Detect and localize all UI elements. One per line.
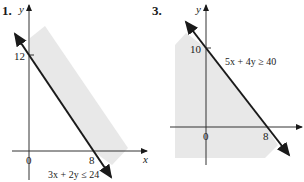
x-tick-label: 8: [89, 155, 95, 165]
graph-panel-3: 3. y 10 0 8 5x + 4y ≥ 40: [152, 0, 304, 182]
origin-label: 0: [203, 131, 209, 141]
x-axis-label: x: [143, 154, 148, 164]
y-axis-label: y: [19, 4, 24, 14]
problem-number: 1.: [2, 3, 12, 19]
x-tick-label: 8: [263, 131, 269, 141]
origin-label: 0: [26, 155, 32, 165]
inequality-label: 5x + 4y ≥ 40: [225, 57, 276, 67]
graph-panel-1: 1. y 12 0 8 x 3x + 2y ≤ 24: [0, 0, 152, 182]
y-tick-label: 12: [14, 51, 25, 61]
problem-number: 3.: [152, 3, 162, 19]
y-axis-label: y: [196, 4, 201, 14]
shaded-region: [30, 26, 128, 165]
y-tick-label: 10: [190, 44, 201, 54]
inequality-label: 3x + 2y ≤ 24: [48, 170, 99, 180]
graph-1-canvas: [0, 0, 152, 182]
graph-3-canvas: [152, 0, 304, 182]
